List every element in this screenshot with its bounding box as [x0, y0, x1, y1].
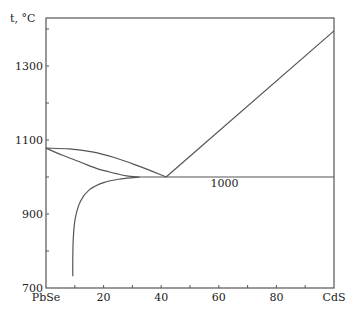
- x-tick-label: 60: [212, 291, 226, 304]
- axis-ticks: [46, 29, 305, 288]
- x-tick-label: 20: [97, 291, 111, 304]
- y-tick-label: 700: [22, 282, 43, 295]
- x-tick-label: 80: [269, 291, 283, 304]
- y-tick-label: 1100: [15, 134, 43, 147]
- plot-frame: [46, 18, 334, 288]
- y-tick-label: 1300: [15, 60, 43, 73]
- phase-curves: [46, 31, 334, 276]
- plot-border: [46, 18, 334, 288]
- liquidus-PbSe-side-curve: [46, 148, 166, 177]
- liquidus-CdS-side-curve: [166, 31, 334, 177]
- x-tick-label: 40: [154, 291, 168, 304]
- y-axis-label: t, °C: [10, 12, 35, 25]
- y-tick-label: 900: [22, 208, 43, 221]
- x-tick-label: CdS: [323, 291, 346, 304]
- axis-labels: PbSe20406080CdS700900110013001000: [15, 60, 346, 304]
- solvus-curve: [73, 177, 140, 276]
- isotherm-annotation: 1000: [211, 177, 239, 190]
- phase-diagram: PbSe20406080CdS700900110013001000 t, °C: [0, 0, 357, 322]
